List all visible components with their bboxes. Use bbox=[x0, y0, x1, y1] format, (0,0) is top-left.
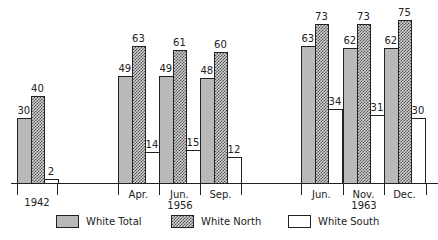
bar-total bbox=[17, 118, 32, 183]
x-tick bbox=[241, 183, 242, 195]
x-tick bbox=[57, 183, 58, 195]
bar-chart: 3040249631449611548601263733462733162753… bbox=[0, 0, 438, 240]
bar-value-label: 73 bbox=[313, 12, 331, 22]
bar-value-label: 73 bbox=[355, 12, 373, 22]
bar-value-label: 75 bbox=[396, 8, 414, 18]
legend-swatch-south bbox=[288, 215, 311, 228]
bar-north bbox=[173, 50, 188, 183]
month-label: Jun. bbox=[301, 189, 342, 200]
legend-label-south: White South bbox=[318, 215, 379, 228]
x-tick bbox=[426, 183, 427, 195]
legend-swatch-total bbox=[56, 215, 79, 228]
bar-north bbox=[214, 52, 229, 183]
bar-total bbox=[118, 76, 133, 183]
bar-south bbox=[186, 150, 201, 183]
x-tick bbox=[17, 183, 18, 195]
bar-value-label: 12 bbox=[225, 145, 243, 155]
month-label: Jun. bbox=[159, 189, 200, 200]
x-axis bbox=[11, 183, 438, 184]
month-label: Nov. bbox=[343, 189, 384, 200]
bar-south bbox=[370, 115, 385, 183]
bar-south bbox=[227, 157, 242, 183]
year-label: 1963 bbox=[344, 200, 384, 211]
bar-total bbox=[200, 78, 215, 183]
bar-value-label: 30 bbox=[409, 106, 427, 116]
legend-swatch-north bbox=[171, 215, 194, 228]
bar-value-label: 63 bbox=[130, 34, 148, 44]
month-label: Apr. bbox=[118, 189, 159, 200]
bar-south bbox=[411, 118, 426, 183]
bar-total bbox=[159, 76, 174, 183]
legend-label-total: White Total bbox=[86, 215, 142, 228]
bar-total bbox=[384, 48, 399, 183]
bar-value-label: 40 bbox=[29, 84, 47, 94]
bar-south bbox=[145, 152, 160, 183]
legend-label-north: White North bbox=[201, 215, 261, 228]
bar-value-label: 34 bbox=[326, 97, 344, 107]
bar-north bbox=[132, 46, 147, 183]
bar-total bbox=[343, 48, 358, 183]
bar-total bbox=[301, 46, 316, 183]
bar-value-label: 2 bbox=[42, 167, 60, 177]
year-label: 1942 bbox=[17, 197, 57, 208]
bar-north bbox=[398, 20, 413, 184]
month-label: Dec. bbox=[384, 189, 425, 200]
bar-value-label: 61 bbox=[171, 38, 189, 48]
bar-south bbox=[328, 109, 343, 183]
year-label: 1956 bbox=[160, 200, 200, 211]
bar-value-label: 60 bbox=[212, 40, 230, 50]
month-label: Sep. bbox=[200, 189, 241, 200]
